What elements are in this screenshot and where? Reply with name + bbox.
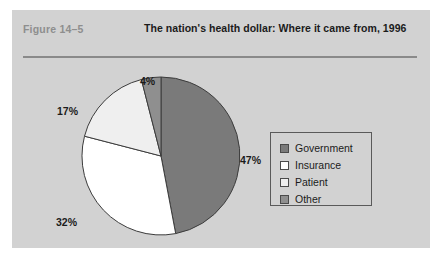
figure-title: The nation's health dollar: Where it cam…: [144, 22, 422, 36]
legend-item-insurance[interactable]: Insurance: [280, 157, 371, 173]
chart-legend: Government Insurance Patient Other: [270, 132, 372, 206]
figure-number-label: Figure 14–5: [23, 23, 84, 35]
legend-swatch-government: [280, 144, 289, 153]
legend-swatch-insurance: [280, 161, 289, 170]
legend-swatch-other: [280, 195, 289, 204]
pie-label-government: 47%: [240, 154, 261, 166]
legend-item-other[interactable]: Other: [280, 191, 371, 207]
figure-header: Figure 14–5 The nation's health dollar: …: [12, 10, 430, 58]
pie-label-other: 4%: [140, 75, 155, 87]
legend-item-government[interactable]: Government: [280, 140, 371, 156]
figure-panel: Figure 14–5 The nation's health dollar: …: [12, 10, 430, 248]
legend-label-government: Government: [295, 143, 353, 154]
pie-chart-svg: [80, 75, 242, 237]
legend-item-patient[interactable]: Patient: [280, 174, 371, 190]
pie-slice-government[interactable]: [161, 77, 240, 234]
chart-area: 47% 32% 17% 4% Government Insurance Pati…: [12, 58, 430, 248]
legend-label-insurance: Insurance: [295, 160, 341, 171]
legend-label-other: Other: [295, 194, 321, 205]
pie-label-patient: 17%: [57, 105, 78, 117]
legend-label-patient: Patient: [295, 177, 328, 188]
pie-chart: [80, 75, 242, 237]
legend-swatch-patient: [280, 178, 289, 187]
pie-label-insurance: 32%: [56, 216, 77, 228]
